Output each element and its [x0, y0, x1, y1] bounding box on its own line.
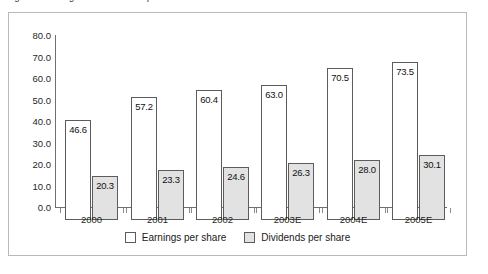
x-tick-label: 2002: [186, 214, 259, 225]
bar-earnings[interactable]: 73.5: [392, 62, 418, 220]
y-tick-label: 40.0: [33, 116, 52, 127]
figure-caption: Figure: Earnings and dividends per share: [6, 0, 189, 2]
y-tick-label: 0.0: [38, 202, 51, 213]
bar-value-label: 26.3: [289, 167, 313, 178]
bar-earnings[interactable]: 46.6: [65, 120, 91, 220]
gray-square-icon: [244, 232, 255, 243]
cropped-caption-strip: Figure: Earnings and dividends per share: [0, 0, 488, 9]
legend-item[interactable]: Earnings per share: [125, 232, 227, 243]
x-axis-tick: [189, 208, 190, 213]
bar-earnings[interactable]: 60.4: [196, 90, 222, 220]
figure-frame: 80.070.060.050.040.030.020.010.00.0 46.6…: [8, 12, 467, 256]
x-axis-tick: [60, 208, 61, 213]
y-tick-label: 70.0: [33, 51, 52, 62]
x-axis-tick: [126, 208, 127, 213]
bar-value-label: 70.5: [328, 72, 352, 83]
x-axis-tick: [387, 208, 388, 213]
x-axis-tick: [450, 208, 451, 213]
bar-earnings[interactable]: 70.5: [327, 68, 353, 220]
bar-value-label: 24.6: [224, 171, 248, 182]
bar-value-label: 28.0: [355, 164, 379, 175]
bar-earnings[interactable]: 57.2: [131, 97, 157, 220]
y-tick-label: 30.0: [33, 137, 52, 148]
bar-value-label: 23.3: [159, 174, 183, 185]
bar-dividends[interactable]: 24.6: [223, 167, 249, 220]
bar-value-label: 30.1: [420, 159, 444, 170]
bar-value-label: 63.0: [262, 89, 286, 100]
legend-label: Dividends per share: [261, 232, 350, 243]
bar-group: 73.530.1: [392, 48, 445, 220]
bar-dividends[interactable]: 23.3: [158, 170, 184, 220]
bar-value-label: 20.3: [93, 180, 117, 191]
y-tick-label: 10.0: [33, 180, 52, 191]
x-axis-tick: [254, 208, 255, 213]
y-axis-line: [55, 35, 56, 208]
bar-dividends[interactable]: 28.0: [354, 160, 380, 220]
x-axis-tick: [191, 208, 192, 213]
legend-label: Earnings per share: [142, 232, 227, 243]
bar-value-label: 60.4: [197, 94, 221, 105]
plot-area: 80.070.060.050.040.030.020.010.00.0 46.6…: [55, 35, 447, 221]
x-axis-tick: [123, 208, 124, 213]
bar-dividends[interactable]: 26.3: [288, 163, 314, 220]
bar-earnings[interactable]: 63.0: [261, 85, 287, 220]
bar-group: 70.528.0: [327, 48, 380, 220]
bar-value-label: 57.2: [132, 101, 156, 112]
x-axis-tick: [322, 208, 323, 213]
y-tick-label: 60.0: [33, 73, 52, 84]
bar-group: 57.223.3: [131, 48, 184, 220]
x-axis-tick: [319, 208, 320, 213]
x-tick-label: 2001: [121, 214, 194, 225]
bar-group: 60.424.6: [196, 48, 249, 220]
chart-legend: Earnings per shareDividends per share: [9, 232, 466, 243]
legend-item[interactable]: Dividends per share: [244, 232, 350, 243]
bar-value-label: 73.5: [393, 66, 417, 77]
bar-group: 46.620.3: [65, 48, 118, 220]
bar-dividends[interactable]: 30.1: [419, 155, 445, 220]
x-tick-label: 2000: [55, 214, 128, 225]
bar-group: 63.026.3: [261, 48, 314, 220]
x-tick-label: 2005E: [382, 214, 455, 225]
x-axis-tick: [385, 208, 386, 213]
y-tick-label: 80.0: [33, 30, 52, 41]
x-axis-tick: [256, 208, 257, 213]
bar-value-label: 46.6: [66, 124, 90, 135]
x-tick-label: 2004E: [317, 214, 390, 225]
y-tick-label: 50.0: [33, 94, 52, 105]
y-axis-tick-labels: 80.070.060.050.040.030.020.010.00.0: [13, 35, 51, 208]
y-tick-label: 20.0: [33, 159, 52, 170]
white-square-icon: [125, 232, 136, 243]
x-tick-label: 2003E: [251, 214, 324, 225]
